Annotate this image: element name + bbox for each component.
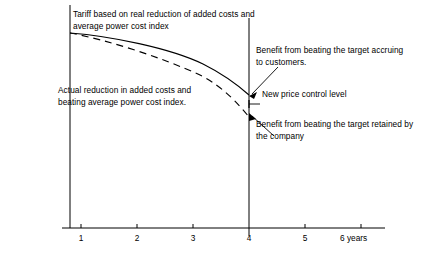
x-tick-label-2: 2 <box>127 233 147 243</box>
annotation-benefit-accruing-to-customers: Benefit from beating the target accruing… <box>256 45 436 68</box>
x-tick-label-5: 5 <box>295 233 315 243</box>
leader-new-price-control-level <box>249 100 260 108</box>
annotation-actual-reduction: Actual reduction in added costs and beat… <box>58 85 233 108</box>
x-tick-label-1: 1 <box>71 233 91 243</box>
x-axis-ticks <box>81 224 361 228</box>
x-axis-unit-label: 6 years <box>340 233 388 243</box>
annotation-new-price-control-level: New price control level <box>262 89 437 101</box>
annotation-tariff-curve: Tariff based on real reduction of added … <box>73 9 278 32</box>
x-tick-label-3: 3 <box>183 233 203 243</box>
annotation-benefit-retained-by-company: Benefit from beating the target retained… <box>256 119 436 142</box>
x-tick-label-4: 4 <box>239 233 259 243</box>
diagram-canvas: Tariff based on real reduction of added … <box>0 0 441 260</box>
